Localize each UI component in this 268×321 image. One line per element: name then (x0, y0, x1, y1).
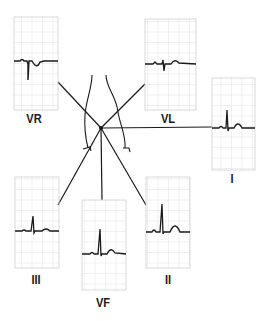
ecg-box-vr (14, 17, 58, 110)
label-ii: II (155, 272, 181, 287)
ecg-box-ii (146, 177, 190, 268)
torso-right-curve (106, 75, 130, 152)
axis-vl (101, 84, 145, 128)
center-point (99, 126, 103, 130)
label-vf: VF (90, 295, 116, 310)
axis-vf (101, 128, 102, 200)
ecg-box-vf (82, 200, 126, 290)
ecg-box-vl (145, 19, 196, 110)
axis-iii (58, 128, 101, 205)
ecg-box-i (212, 78, 255, 170)
axis-vr (58, 82, 101, 128)
ecg-box-iii (15, 177, 59, 268)
label-iii: III (23, 272, 49, 287)
torso-outline (83, 75, 130, 152)
label-vl: VL (155, 111, 181, 126)
label-i: I (219, 171, 245, 186)
label-vr: VR (21, 111, 47, 126)
axis-i (101, 127, 212, 128)
axis-ii (101, 128, 146, 205)
